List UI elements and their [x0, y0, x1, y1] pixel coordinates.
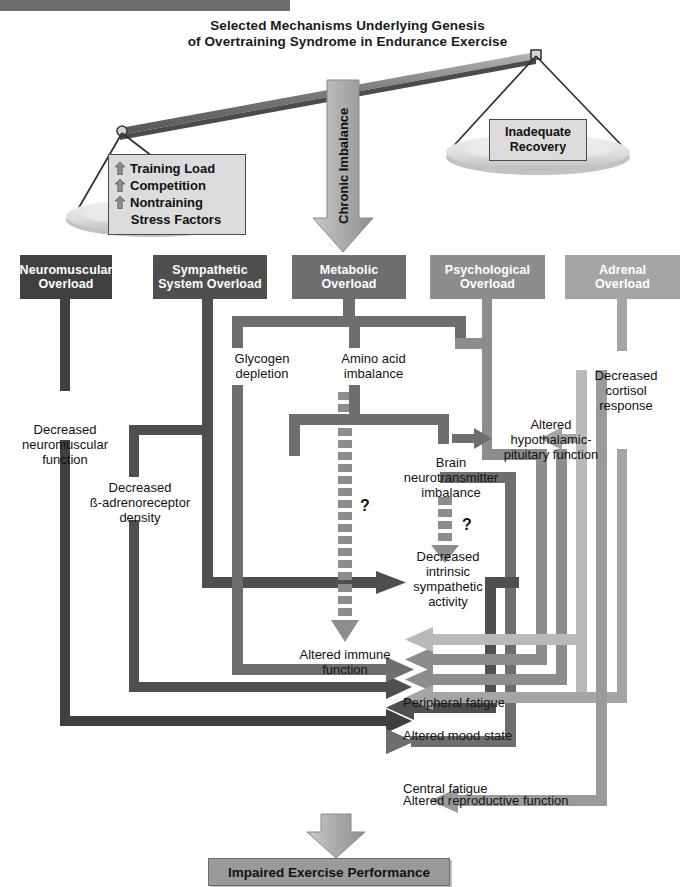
diagram-canvas: Selected Mechanisms Underlying Genesis o…: [0, 0, 695, 887]
node-decreased-cortisol-response: Decreased cortisol response: [572, 368, 680, 413]
load-item-0-label: Training Load: [130, 160, 215, 177]
load-item-2-label: Nontraining: [130, 194, 203, 211]
final-arrow: [307, 814, 365, 858]
overload-neuromuscular-line2: Overload: [20, 277, 113, 291]
node-amino-acid-imbalance: Amino acid imbalance: [316, 351, 431, 381]
up-arrow-icon: [115, 196, 125, 209]
node-decreased-neuromuscular-function: Decreased neuromuscular function: [10, 422, 120, 467]
load-item-2: Nontraining: [115, 194, 237, 211]
overload-box-sympathetic[interactable]: Sympathetic System Overload: [153, 255, 267, 299]
overload-adrenal-line1: Adrenal: [595, 263, 650, 277]
load-item-3-label: Stress Factors: [131, 211, 221, 228]
overload-box-adrenal[interactable]: Adrenal Overload: [565, 255, 680, 299]
up-arrow-icon: [115, 162, 125, 175]
overload-box-neuromuscular[interactable]: Neuromuscular Overload: [20, 255, 112, 299]
overload-metabolic-line2: Overload: [320, 277, 379, 291]
path-amino-acid: [289, 385, 492, 456]
overload-psychological-line1: Psychological: [445, 263, 530, 277]
overload-neuromuscular-line1: Neuromuscular: [20, 263, 113, 277]
question-mark-neurotransmitter: ?: [462, 516, 472, 534]
inadequate-recovery-line2: Recovery: [510, 140, 566, 155]
overload-box-psychological[interactable]: Psychological Overload: [430, 255, 545, 299]
node-brain-neurotransmitter-imbalance: Brain neurotransmitter imbalance: [392, 455, 510, 500]
overload-sympathetic-line1: Sympathetic: [158, 263, 262, 277]
inadequate-recovery-line1: Inadequate: [505, 125, 571, 140]
load-item-3: Stress Factors: [115, 211, 237, 228]
overload-box-metabolic[interactable]: Metabolic Overload: [292, 255, 406, 299]
load-item-0: Training Load: [115, 160, 237, 177]
overload-adrenal-line2: Overload: [595, 277, 650, 291]
node-decreased-beta-adrenoreceptor-density: Decreased ß-adrenoreceptor density: [74, 480, 206, 525]
chronic-imbalance-label: Chronic Imbalance: [336, 108, 351, 224]
load-item-1: Competition: [115, 177, 237, 194]
question-mark-glycogen: ?: [360, 497, 370, 515]
overload-psychological-line2: Overload: [445, 277, 530, 291]
inadequate-recovery-box: Inadequate Recovery: [489, 119, 587, 161]
load-item-1-label: Competition: [130, 177, 206, 194]
up-arrow-icon: [115, 179, 125, 192]
path-metabolic: [232, 316, 466, 348]
impaired-exercise-performance-box[interactable]: Impaired Exercise Performance: [208, 858, 450, 886]
overload-metabolic-line1: Metabolic: [320, 263, 379, 277]
node-decreased-intrinsic-sympathetic-activity: Decreased intrinsic sympathetic activity: [398, 549, 498, 609]
path-glycogen-depletion: [232, 385, 414, 682]
training-load-box: Training Load Competition Nontraining St…: [108, 154, 246, 235]
impaired-exercise-performance-label: Impaired Exercise Performance: [228, 865, 430, 880]
overload-sympathetic-line2: System Overload: [158, 277, 262, 291]
node-glycogen-depletion: Glycogen depletion: [212, 351, 312, 381]
node-altered-immune-function: Altered immune function: [283, 647, 407, 677]
